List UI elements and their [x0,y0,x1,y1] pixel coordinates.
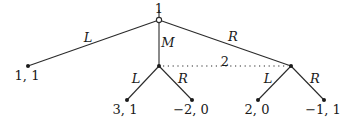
edge-label-R-L: L [263,71,273,86]
payoff-L: 1, 1 [15,68,40,83]
edge-label-root-R: R [227,29,238,44]
edge-label-R-R: R [309,71,320,86]
edge-label-M-R: R [177,71,188,86]
payoff-RL: 2, 0 [245,102,270,117]
decision-node-middle [157,64,161,68]
decision-node-right [289,64,293,68]
edge-label-M-L: L [131,71,141,86]
edge-label-root-M: M [160,35,175,50]
edge-root-left [28,20,159,66]
payoff-MR: −2, 0 [173,102,209,117]
info-set-player-label: 2 [221,54,229,69]
game-tree-diagram: 1 2 L M R L R L R 1, 1 3, 1 −2, 0 2, 0 −… [0,0,354,123]
root-node [156,17,161,22]
root-player-label: 1 [155,1,163,16]
payoff-ML: 3, 1 [113,102,138,117]
payoff-RR: −1, 1 [305,102,341,117]
edge-label-root-L: L [83,30,93,45]
